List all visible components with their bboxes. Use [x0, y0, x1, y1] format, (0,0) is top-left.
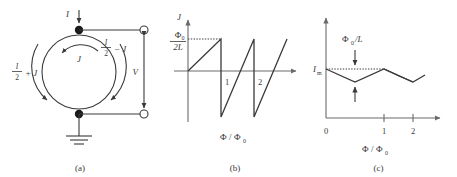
left-branch-denominator: 2 — [15, 73, 19, 82]
panel-c-annotation-main: Φ — [342, 34, 349, 44]
right-branch-denominator: 2 — [104, 49, 108, 58]
label-current-in: I — [65, 9, 70, 19]
panel-b-y-tick-label: Φ 0 2L — [170, 30, 186, 52]
panel-c-zigzag-chart: I m Φ 0 /L 0 1 2 Φ — [300, 0, 457, 177]
panel-c-zigzag-curve — [326, 69, 425, 82]
figure-container: I V J — [0, 0, 457, 177]
panel-b-xlabel-slash: / — [229, 132, 232, 142]
top-terminal — [140, 26, 148, 34]
label-right-branch: I 2 − J — [101, 38, 127, 58]
panel-b-x-axis-title: Φ / Φ 0 — [220, 132, 246, 144]
panel-c-xlabel-sub: 0 — [385, 150, 388, 156]
panel-b-xtick-1: 1 — [225, 77, 229, 87]
panel-c-annotation-sub: 0 — [351, 40, 354, 46]
left-branch-numerator: I — [15, 62, 19, 71]
panel-b-xtick-2: 2 — [258, 77, 262, 87]
panel-c-caption: (c) — [300, 163, 457, 173]
label-voltage: V — [133, 67, 140, 77]
panel-c-annotation-label: Φ 0 /L — [342, 34, 363, 46]
panel-b-ytick-numerator-sub: 0 — [182, 35, 185, 41]
panel-c-xtick-0: 0 — [324, 126, 328, 136]
panel-c-svg: I m Φ 0 /L 0 1 2 Φ — [300, 0, 457, 177]
panel-b-svg: J Φ 0 2L 1 2 Φ / Φ 0 — [160, 0, 310, 177]
panel-a-caption: (a) — [0, 163, 160, 173]
panel-c-xlabel-numerator: Φ — [362, 144, 369, 154]
panel-c-xtick-2: 2 — [411, 126, 415, 136]
panel-c-x-axis-title: Φ / Φ 0 — [362, 144, 388, 156]
panel-b-ytick-denominator: 2L — [173, 42, 183, 52]
panel-c-y-tick-label: I m — [312, 64, 322, 76]
panel-b-caption: (b) — [160, 163, 310, 173]
panel-c-xtick-1: 1 — [382, 126, 386, 136]
panel-a-circuit: I V J — [0, 0, 160, 177]
panel-b-sawtooth-chart: J Φ 0 2L 1 2 Φ / Φ 0 (b) — [160, 0, 310, 177]
panel-b-xlabel-denominator: Φ — [234, 132, 241, 142]
label-circulating-current: J — [77, 54, 82, 64]
panel-c-annotation-tail: /L — [354, 34, 363, 44]
panel-c-zigzag-curve-seg2 — [384, 69, 413, 82]
label-left-branch: I 2 + J — [12, 62, 38, 82]
panel-b-xlabel-numerator: Φ — [220, 132, 227, 142]
left-branch-tail: + J — [25, 68, 38, 78]
panel-b-y-axis-label: J — [177, 12, 182, 22]
right-branch-tail: − J — [114, 44, 127, 54]
circulating-current-arrow — [62, 45, 98, 53]
panel-c-ylabel-sub: m — [317, 70, 322, 76]
panel-b-sawtooth-curve — [188, 39, 287, 117]
panel-c-xlabel-slash: / — [371, 144, 374, 154]
panel-c-xlabel-denominator: Φ — [376, 144, 383, 154]
panel-a-svg: I V J — [0, 0, 160, 177]
panel-b-xlabel-sub: 0 — [243, 138, 246, 144]
right-branch-numerator: I — [104, 38, 108, 47]
bottom-terminal — [140, 110, 148, 118]
